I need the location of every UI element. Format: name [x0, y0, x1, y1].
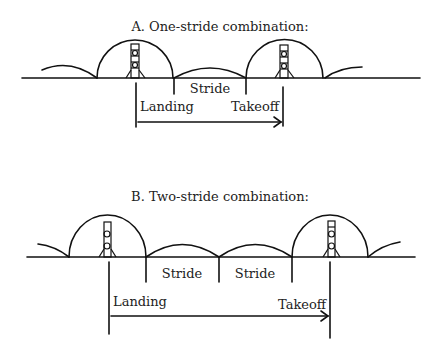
- stride-label: Stride: [190, 81, 231, 96]
- landing-label: Landing: [113, 294, 167, 309]
- departure-arc: [325, 67, 362, 78]
- stride-label-1: Stride: [162, 266, 203, 281]
- jump-standard-2-icon: [323, 221, 340, 257]
- stride-arc-2: [219, 245, 292, 258]
- jump-standard-2-icon: [275, 45, 294, 78]
- panel-a-title: A. One-stride combination:: [130, 19, 308, 34]
- stride-arc-1: [146, 245, 219, 258]
- panel-one-stride: A. One-stride combination:: [22, 19, 420, 127]
- takeoff-label: Takeoff: [278, 297, 328, 312]
- departure-arc: [368, 242, 400, 257]
- jump-arc-1: [97, 40, 173, 78]
- approach-arc: [42, 66, 97, 79]
- jump-standard-1-icon: [99, 222, 116, 257]
- stride-arc: [174, 68, 246, 78]
- jump-arc-1: [69, 215, 146, 257]
- approach-arc: [38, 244, 69, 257]
- panel-b-title: B. Two-stride combination:: [131, 189, 309, 204]
- combination-diagram: A. One-stride combination:: [0, 0, 443, 354]
- jump-standard-1-icon: [126, 44, 145, 78]
- panel-two-stride: B. Two-stride combination:: [27, 189, 415, 338]
- distance-arrow: [138, 117, 281, 127]
- distance-arrow: [111, 311, 328, 321]
- takeoff-label: Takeoff: [231, 99, 281, 114]
- stride-label-2: Stride: [235, 266, 276, 281]
- landing-label: Landing: [140, 99, 194, 114]
